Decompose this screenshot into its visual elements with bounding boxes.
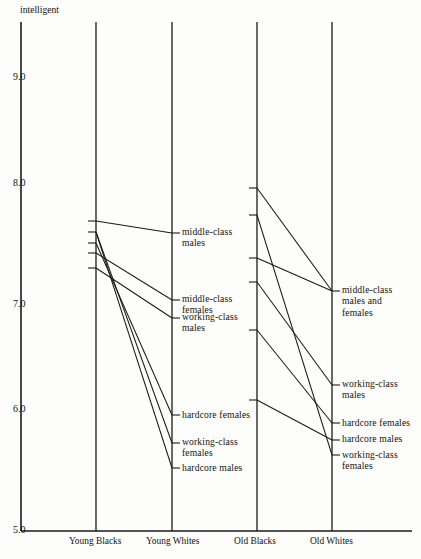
annotation-line-2: males and	[342, 295, 392, 306]
annotation-line-1: hardcore females	[182, 409, 250, 420]
annotation-ow-working-class-females: working-class females	[342, 449, 398, 472]
annotation-line-2: males	[342, 389, 398, 400]
annotation-line-1: middle-class	[342, 284, 392, 295]
annotation-ow-middle-class-males-and-females: middle-class males and females	[342, 284, 392, 318]
annotation-yw-hardcore-males: hardcore males	[182, 462, 242, 473]
line-hardcore-females-old	[257, 330, 332, 423]
annotation-yw-hardcore-females: hardcore females	[182, 409, 250, 420]
annotation-yw-working-class-females: working-class females	[182, 436, 238, 459]
y-axis-title: intelligent	[20, 4, 59, 15]
annotation-line-1: working-class	[342, 378, 398, 389]
axis-label-young-whites: Young Whites	[146, 536, 199, 546]
annotation-ow-hardcore-females: hardcore females	[342, 417, 410, 428]
annotation-ow-working-class-males: working-class males	[342, 378, 398, 401]
chart-canvas: intelligent 9.0 8.0 7.0 6.0 5.0 Young Bl…	[0, 0, 421, 559]
axis-label-young-blacks: Young Blacks	[69, 536, 121, 546]
y-tick-9: 9.0	[13, 71, 26, 82]
annotation-line-2: females	[182, 447, 238, 458]
annotation-line-1: working-class	[182, 311, 238, 322]
y-tick-7: 7.0	[13, 298, 26, 309]
y-tick-8: 8.0	[13, 177, 26, 188]
annotation-line-2: males	[182, 322, 238, 333]
annotation-line-1: hardcore males	[182, 462, 242, 473]
axis-label-old-blacks: Old Blacks	[234, 536, 276, 546]
annotation-line-1: working-class	[342, 449, 398, 460]
axis-label-old-whites: Old Whites	[310, 536, 353, 546]
y-tick-6: 6.0	[13, 403, 26, 414]
annotation-line-1: middle-class	[182, 226, 232, 237]
y-tick-5: 5.0	[13, 524, 26, 535]
line-middle-class-females-old	[257, 258, 332, 291]
line-middle-class-males-young	[96, 221, 172, 233]
line-working-class-females-old	[257, 215, 332, 455]
parallel-coordinates-plot	[0, 0, 421, 559]
annotation-line-1: hardcore females	[342, 417, 410, 428]
annotation-yw-working-class-males: working-class males	[182, 311, 238, 334]
annotation-line-2: males	[182, 237, 232, 248]
line-working-class-females-young	[96, 232, 172, 443]
annotation-line-2: females	[342, 460, 398, 471]
line-hardcore-males-young	[96, 232, 172, 468]
line-middle-class-males-old	[257, 188, 332, 291]
annotation-line-1: working-class	[182, 436, 238, 447]
annotation-ow-hardcore-males: hardcore males	[342, 433, 402, 444]
annotation-line-1: hardcore males	[342, 433, 402, 444]
annotation-line-1: middle-class	[182, 293, 232, 304]
annotation-yw-middle-class-males: middle-class males	[182, 226, 232, 249]
annotation-line-3: females	[342, 307, 392, 318]
